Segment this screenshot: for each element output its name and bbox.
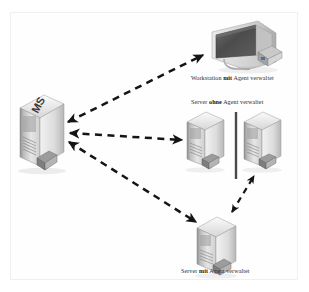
label-workstation-suffix: Agent verwaltet xyxy=(232,75,274,81)
label-server-mit-suffix: Agent verwaltet xyxy=(208,268,250,274)
label-workstation-prefix: Workstation xyxy=(191,75,223,81)
label-server-ohne-bold: ohne xyxy=(209,99,222,105)
label-server-mit-prefix: Server xyxy=(181,268,199,274)
node-server-ohne-agent[interactable] xyxy=(185,112,225,173)
connection-ms-to-server-mit-agent xyxy=(69,142,196,222)
label-workstation: Workstation mit Agent verwaltet xyxy=(191,75,274,81)
label-workstation-bold: mit xyxy=(223,75,232,81)
connection-server-mit-agent-to-proxy xyxy=(232,176,254,212)
diagram-canvas xyxy=(0,0,309,292)
label-server-ohne-agent: Server ohne Agent verwaltet xyxy=(191,99,263,105)
label-server-ohne-suffix: Agent verwaltet xyxy=(222,99,264,105)
label-server-ohne-prefix: Server xyxy=(191,99,209,105)
label-server-mit-bold: mit xyxy=(199,268,208,274)
network-diagram: MS Workstation mit Agent verwaltet Serve… xyxy=(0,0,309,292)
connection-ms-to-workstation xyxy=(68,55,203,122)
node-server-proxy-right[interactable] xyxy=(242,112,282,173)
node-workstation[interactable] xyxy=(212,21,282,73)
connection-ms-to-server-ohne-agent xyxy=(70,133,182,140)
label-server-mit-agent: Server mit Agent verwaltet xyxy=(181,268,250,274)
